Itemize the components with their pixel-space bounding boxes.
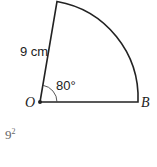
end-label-b: B bbox=[141, 95, 150, 111]
center-point bbox=[38, 100, 42, 104]
radius-label: 9 cm bbox=[20, 44, 48, 59]
sector-outline bbox=[40, 2, 138, 103]
footer-fragment: 92 bbox=[5, 127, 16, 143]
angle-label: 80° bbox=[56, 78, 76, 93]
angle-arc bbox=[43, 85, 57, 102]
fragment-exponent: 2 bbox=[12, 127, 16, 136]
center-label-o: O bbox=[25, 95, 35, 111]
sector-diagram bbox=[0, 0, 157, 167]
